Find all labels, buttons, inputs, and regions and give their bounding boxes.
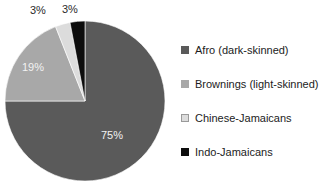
- legend-item-brownings[interactable]: Brownings (light-skinned): [181, 70, 331, 98]
- slice-label-chinese: 3%: [30, 4, 46, 16]
- legend-item-chinese[interactable]: Chinese-Jamaicans: [181, 104, 331, 132]
- pie-chart: 75% 19% 3% 3%: [0, 0, 175, 182]
- pie-chart-svg: [0, 0, 175, 182]
- legend-item-indo[interactable]: Indo-Jamaicans: [181, 138, 331, 166]
- legend-label-chinese: Chinese-Jamaicans: [195, 112, 292, 124]
- legend-label-afro: Afro (dark-skinned): [195, 44, 289, 56]
- legend-label-brownings: Brownings (light-skinned): [195, 78, 319, 90]
- legend-item-afro[interactable]: Afro (dark-skinned): [181, 36, 331, 64]
- legend-label-indo: Indo-Jamaicans: [195, 146, 273, 158]
- legend-swatch-afro: [181, 46, 189, 54]
- slice-label-indo: 3%: [62, 3, 78, 15]
- slice-label-brownings: 19%: [22, 61, 44, 73]
- slice-label-afro: 75%: [101, 129, 123, 141]
- pie-chart-screenshot: 75% 19% 3% 3% Afro (dark-skinned) Browni…: [0, 0, 331, 182]
- legend-swatch-chinese: [181, 114, 189, 122]
- legend-swatch-brownings: [181, 80, 189, 88]
- chart-legend: Afro (dark-skinned) Brownings (light-ski…: [181, 36, 331, 172]
- legend-swatch-indo: [181, 148, 189, 156]
